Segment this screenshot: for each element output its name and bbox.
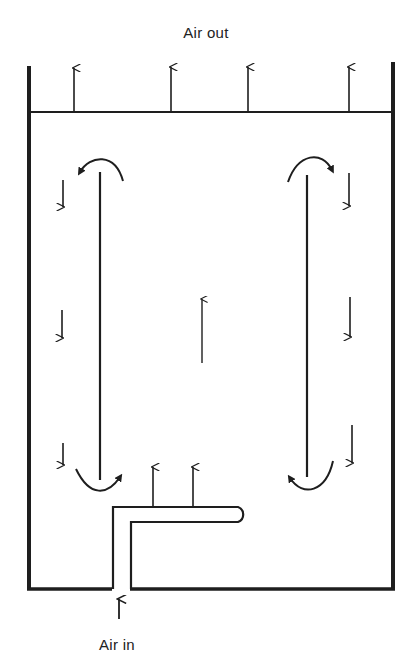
air-in-label: Air in <box>99 636 135 653</box>
vessel-walls <box>27 62 395 590</box>
inlet-upward-arrows <box>153 467 193 507</box>
right-downward-arrows <box>349 173 352 463</box>
air-out-label: Air out <box>183 24 228 41</box>
air-out-arrows <box>74 67 349 112</box>
inlet-pipe <box>113 507 243 589</box>
left-downward-arrows <box>62 180 63 465</box>
fluidized-bed-diagram <box>0 0 413 664</box>
curved-recirculation-arrows <box>76 157 333 490</box>
